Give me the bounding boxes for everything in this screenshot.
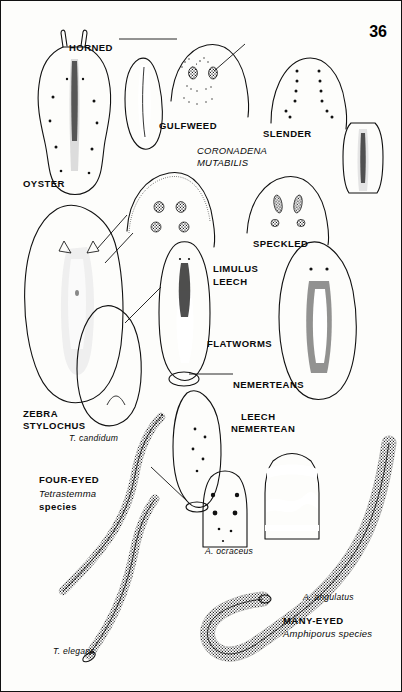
label-four-eyed: FOUR-EYED [39,475,99,486]
label-amphiporus: Amphiporus species [283,629,372,640]
diagram-slender-head [271,58,347,129]
label-leech-nemertean-line2: NEMERTEAN [231,424,295,435]
label-t-candidum: T. candidum [69,434,118,444]
label-gulfweed: GULFWEED [159,121,217,132]
label-coronadena: CORONADENA [197,146,267,157]
diagram-coronadena-head [127,173,215,247]
label-horned: HORNED [69,43,113,54]
label-leech: LEECH [213,277,247,288]
label-many-eyed: MANY-EYED [283,616,344,627]
plate-artwork [1,1,402,692]
label-mutabilis: MUTABILIS [197,158,248,169]
specimen-leech-nemertean [151,391,221,512]
label-slender: SLENDER [263,129,312,140]
label-speckled: SPECKLED [253,239,308,250]
label-t-elegans: T. elegans [53,647,95,657]
specimen-a-ocraceus-head [203,471,247,547]
specimen-speckled-body [279,242,356,399]
label-leech-nemertean-line1: LEECH [241,412,275,423]
label-a-angulatus: A. angulatus [303,593,354,603]
specimen-a-angulatus-head [265,454,319,540]
specimen-oyster-flatworm [25,205,133,402]
label-nemerteans: NEMERTEANS [233,380,304,391]
specimen-gulfweed-whole [125,58,162,149]
label-oyster: OYSTER [23,179,65,190]
label-limulus: LIMULUS [213,264,258,275]
page-number: 36 [369,23,387,41]
specimen-limulus-leech [159,242,210,386]
plate-page: 36 HORNED GULFWEED SLENDER CORONADENA MU… [0,0,402,692]
diagram-speckled-head [247,176,329,245]
specimen-right-edge-top [343,123,383,193]
label-zebra: ZEBRA [23,409,58,420]
label-stylochus: STYLOCHUS [23,421,86,432]
diagram-gulfweed-head [171,44,249,117]
label-flatworms: FLATWORMS [207,339,272,350]
label-species: species [39,502,77,513]
specimen-horned-flatworm [38,30,111,194]
label-a-ocraceus: A. ocraceus [205,547,253,557]
label-tetrastemma: Tetrastemma [39,489,96,500]
